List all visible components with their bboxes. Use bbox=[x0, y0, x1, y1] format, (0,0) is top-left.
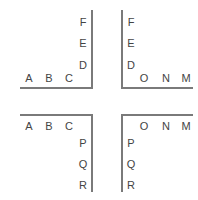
label-tl-f: F bbox=[78, 17, 88, 28]
label-bl-r: R bbox=[78, 180, 88, 191]
label-bl-b: B bbox=[44, 121, 54, 132]
label-tr-m: M bbox=[181, 73, 191, 84]
label-bl-c: C bbox=[64, 121, 74, 132]
label-bl-q: Q bbox=[78, 159, 88, 170]
label-tl-b: B bbox=[44, 73, 54, 84]
label-br-q: Q bbox=[126, 159, 136, 170]
label-tr-f: F bbox=[126, 17, 136, 28]
top-left-horizontal-line bbox=[20, 87, 93, 89]
label-tl-d: D bbox=[78, 60, 88, 71]
bottom-right-horizontal-line bbox=[121, 114, 193, 116]
label-br-m: M bbox=[181, 121, 191, 132]
top-right-horizontal-line bbox=[121, 87, 193, 89]
label-br-p: P bbox=[126, 138, 136, 149]
label-tr-e: E bbox=[126, 38, 136, 49]
label-tl-e: E bbox=[78, 38, 88, 49]
label-bl-p: P bbox=[78, 138, 88, 149]
bottom-left-horizontal-line bbox=[20, 114, 93, 116]
top-left-vertical-line bbox=[91, 10, 93, 89]
label-tr-o: O bbox=[139, 73, 149, 84]
label-br-n: N bbox=[161, 121, 171, 132]
bottom-left-vertical-line bbox=[91, 114, 93, 192]
label-tr-d: D bbox=[126, 60, 136, 71]
top-right-vertical-line bbox=[121, 10, 123, 89]
bottom-right-vertical-line bbox=[121, 114, 123, 192]
label-tl-a: A bbox=[24, 73, 34, 84]
label-tl-c: C bbox=[64, 73, 74, 84]
label-bl-a: A bbox=[24, 121, 34, 132]
label-br-o: O bbox=[139, 121, 149, 132]
label-tr-n: N bbox=[161, 73, 171, 84]
label-br-r: R bbox=[126, 180, 136, 191]
